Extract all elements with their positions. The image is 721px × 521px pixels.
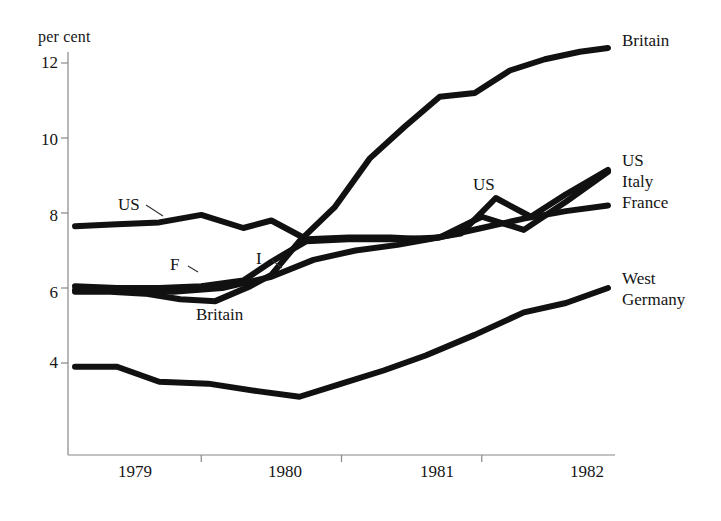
series-line-britain — [75, 48, 608, 301]
series-line-italy — [75, 172, 608, 288]
annotation-leader-line — [146, 205, 163, 216]
annotation-italy: I — [256, 250, 262, 268]
series-line-france — [75, 206, 608, 292]
unemployment-line-chart: per cent 12 10 8 6 4 1979 1980 1981 1982… — [0, 0, 721, 521]
series-line-west-germany — [75, 288, 608, 397]
annotation-us-left: US — [118, 196, 140, 214]
plot-area — [0, 0, 721, 521]
legend-label-germany: Germany — [622, 291, 685, 309]
legend-label-us: US — [622, 152, 644, 170]
legend-label-west: West — [622, 270, 656, 288]
legend-label-france: France — [622, 194, 668, 212]
legend-label-italy: Italy — [622, 173, 653, 191]
legend-label-britain: Britain — [622, 32, 669, 50]
annotation-france: F — [170, 256, 179, 274]
annotation-us-right: US — [473, 176, 495, 194]
annotation-leader-line — [188, 266, 198, 272]
annotation-britain: Britain — [196, 306, 243, 324]
